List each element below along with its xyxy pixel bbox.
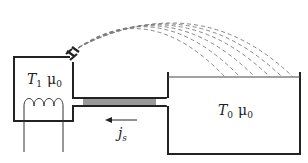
- left-vessel-label: T1μ0: [27, 71, 62, 89]
- right-vessel-label: T0μ0: [218, 102, 253, 120]
- flow-label: js: [115, 125, 127, 143]
- flow-arrow-icon: [105, 117, 137, 123]
- tube-top-wall: [73, 76, 168, 98]
- fountain-jet: [78, 23, 293, 77]
- nozzle-icon: [66, 47, 79, 60]
- right-vessel: [168, 72, 300, 154]
- left-vessel-upper-wall: [73, 62, 82, 98]
- superleak-plug: [83, 99, 156, 105]
- heater-coil-icon: [24, 99, 63, 153]
- fountain-effect-diagram: T1μ0 T0μ0 js: [0, 0, 308, 163]
